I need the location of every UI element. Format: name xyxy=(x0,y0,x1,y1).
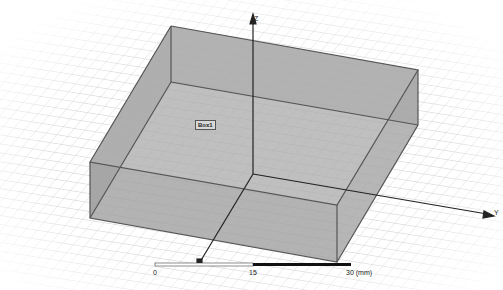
box1-label[interactable]: Box1 xyxy=(195,120,216,130)
y-axis-label: Y xyxy=(494,209,499,216)
ruler-tick-15: 15 xyxy=(249,269,257,276)
ruler-tick-30: 30 (mm) xyxy=(346,269,372,276)
3d-modeler-viewport[interactable]: Z Y Box1 0 15 30 (mm) xyxy=(0,0,503,290)
z-axis-label: Z xyxy=(254,15,258,22)
scale-ruler xyxy=(155,263,351,266)
scene-canvas[interactable] xyxy=(0,0,503,290)
ruler-tick-0: 0 xyxy=(153,269,157,276)
